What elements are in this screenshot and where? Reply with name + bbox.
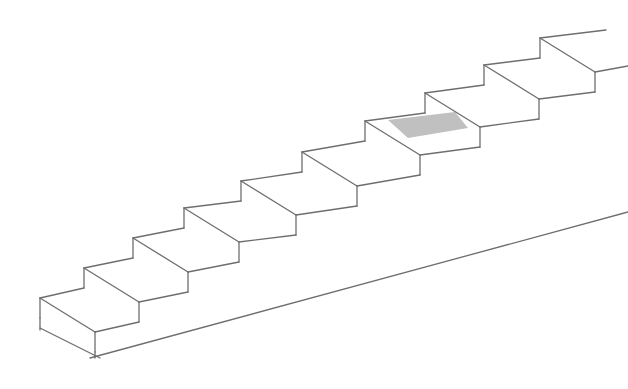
bottom-riser-base-edge [40,328,100,358]
staircase-drawing [0,0,628,389]
step-nosing-edge [133,238,188,272]
step-nosing-edge [540,38,595,72]
tread-front-edge [239,235,296,242]
tread-back-edge [133,228,184,238]
step-nosing-edge [302,152,357,186]
tread-front-edge [296,206,357,215]
tread-back-edge [484,58,540,65]
stair-edges [40,30,628,358]
tread-front-edge [139,292,188,302]
staircase-diagram [0,0,628,389]
tread-back-edge [241,172,302,181]
tread-back-edge [184,201,241,208]
tread-back-edge [425,85,484,93]
tread-front-edge [357,175,420,186]
top-landing-edge [595,66,628,72]
step-nosing-edge [84,268,139,302]
tread-front-edge [95,322,139,332]
step-nosing-edge [184,208,239,242]
tread-back-edge [40,288,84,298]
step-nosing-edge [40,298,95,332]
step-nosing-edge [484,65,539,99]
top-landing-edge [540,30,606,38]
stair-base-line [90,212,628,358]
tread-front-edge [420,147,480,155]
tread-back-edge [84,258,133,268]
tread-back-edge [302,141,365,152]
tread-front-edge [188,262,239,272]
tread-front-edge [480,119,539,127]
step-nosing-edge [241,181,296,215]
tread-front-edge [539,92,595,99]
